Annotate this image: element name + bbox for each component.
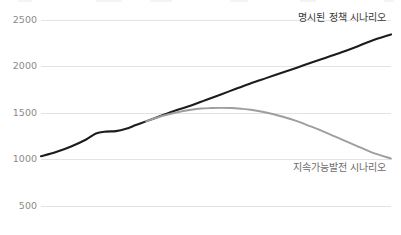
chart-background [0, 0, 401, 235]
series-label-stated-policies: 명시된 정책 시나리오 [298, 12, 385, 23]
y-axis-tick-label: 1500 [13, 107, 37, 118]
y-axis-tick-label: 2000 [13, 60, 37, 71]
y-axis-tick-label: 1000 [13, 153, 37, 164]
y-axis-tick-label: 2500 [13, 14, 37, 25]
series-label-sustainable-development: 지속가능발전 시나리오 [293, 162, 386, 173]
line-chart: 5001000150020002500 명시된 정책 시나리오 지속가능발전 시… [0, 0, 401, 235]
chart-canvas: 5001000150020002500 명시된 정책 시나리오 지속가능발전 시… [0, 0, 401, 235]
y-axis-tick-label: 500 [19, 200, 37, 211]
